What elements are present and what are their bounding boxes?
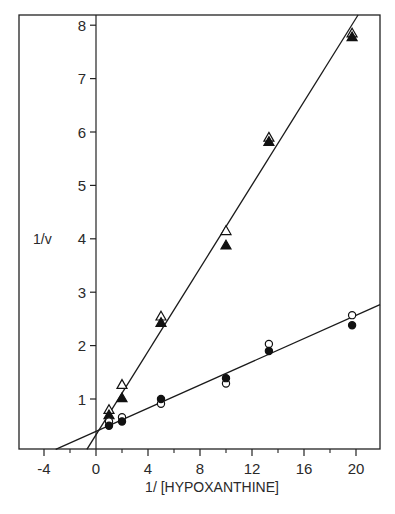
x-tick-label: 4: [144, 460, 152, 477]
x-tick-label: -4: [37, 460, 50, 477]
data-points: [104, 28, 357, 429]
x-tick-label: 0: [92, 460, 100, 477]
open-circle-marker: [265, 340, 272, 347]
filled-circle-marker: [222, 375, 229, 382]
open-triangle-marker: [117, 380, 127, 389]
y-tick-label: 5: [78, 177, 86, 194]
y-tick-label: 1: [78, 391, 86, 408]
y-tick-label: 8: [78, 17, 86, 34]
plot-frame: [19, 15, 380, 449]
y-tick-label: 3: [78, 284, 86, 301]
open-circle-marker: [349, 312, 356, 319]
y-tick-label: 7: [78, 70, 86, 87]
lineweaver-burk-plot: 12345678-4048121620 1/v 1/ [HYPOXANTHINE…: [0, 0, 395, 514]
filled-circle-marker: [349, 322, 356, 329]
y-tick-label: 2: [78, 337, 86, 354]
y-tick-label: 4: [78, 230, 86, 247]
open-triangle-marker: [221, 226, 231, 235]
fit-line: [56, 305, 380, 450]
filled-circle-marker: [265, 347, 272, 354]
y-axis-label: 1/v: [33, 231, 52, 247]
filled-triangle-marker: [221, 240, 231, 249]
fit-lines: [56, 15, 380, 449]
x-tick-label: 8: [196, 460, 204, 477]
x-tick-label: 20: [348, 460, 365, 477]
x-tick-label: 12: [244, 460, 261, 477]
y-tick-label: 6: [78, 124, 86, 141]
x-axis-label: 1/ [HYPOXANTHINE]: [145, 479, 279, 495]
filled-triangle-marker: [117, 393, 127, 402]
filled-circle-marker: [105, 422, 112, 429]
x-tick-label: 16: [296, 460, 313, 477]
filled-circle-marker: [157, 395, 164, 402]
filled-circle-marker: [118, 418, 125, 425]
